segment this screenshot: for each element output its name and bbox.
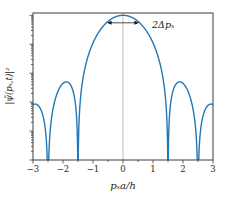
x-tick-label: 1: [150, 164, 155, 174]
x-tick-label: −3: [27, 164, 40, 174]
y-axis-ticks: [30, 15, 34, 160]
figure-canvas: −3−2−10123 2Δpₓ pₓa/h |ψ̃(pₓ,t)|²: [0, 0, 229, 201]
momentum-distribution-plot: −3−2−10123 2Δpₓ pₓa/h |ψ̃(pₓ,t)|²: [0, 0, 229, 201]
x-axis-label: pₓa/h: [110, 180, 136, 191]
x-tick-label: 3: [210, 164, 215, 174]
x-tick-label: −2: [57, 164, 70, 174]
x-tick-label: 2: [180, 164, 185, 174]
annotation-label: 2Δpₓ: [151, 19, 175, 30]
x-tick-label: 0: [120, 164, 125, 174]
x-tick-label: −1: [87, 164, 100, 174]
x-axis-tick-labels: −3−2−10123: [27, 164, 216, 174]
y-axis-label: |ψ̃(pₓ,t)|²: [4, 67, 15, 105]
x-axis-ticks: [33, 160, 213, 164]
